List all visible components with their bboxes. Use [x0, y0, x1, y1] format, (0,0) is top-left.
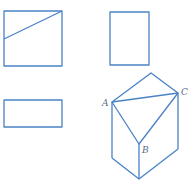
top-view	[4, 100, 62, 127]
triangle-abc	[112, 93, 178, 144]
front-view	[4, 11, 62, 66]
side-view-rectangle	[110, 12, 149, 65]
solid-figure	[112, 73, 178, 179]
vertex-label-b: B	[141, 145, 149, 155]
vertex-label-c: C	[181, 87, 188, 97]
top-view-rectangle	[4, 100, 62, 127]
front-view-square	[4, 11, 62, 66]
front-view-diagonal	[4, 11, 62, 39]
vertex-label-a: A	[101, 98, 109, 108]
three-view-diagram: A C B	[0, 0, 192, 182]
side-view	[110, 12, 149, 65]
